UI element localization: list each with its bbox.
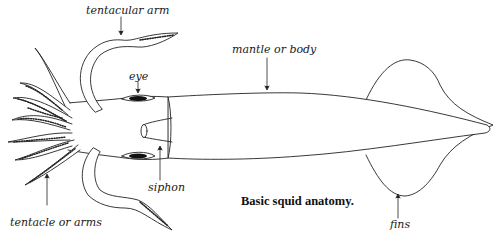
head-shape	[68, 96, 168, 159]
diagram-caption: Basic squid anatomy.	[241, 195, 354, 208]
label-mantle: mantle or body	[232, 44, 316, 55]
label-tentacular-arm: tentacular arm	[86, 5, 169, 16]
label-tentacle-arms: tentacle or arms	[10, 217, 102, 228]
label-eye: eye	[129, 71, 148, 82]
squid-anatomy-diagram: tentacular arm eye mantle or body siphon…	[0, 0, 503, 243]
label-siphon: siphon	[148, 182, 185, 193]
label-fins: fins	[390, 219, 410, 230]
